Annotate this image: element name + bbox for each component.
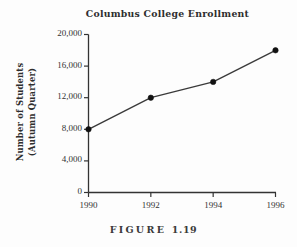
figure-caption: FIGURE 1.19 [0,224,297,235]
figure-container: Columbus College Enrollment Number of St… [0,0,297,247]
figure-caption-word: FIGURE [110,224,167,235]
x-axis-tick-label: 1992 [128,200,174,210]
x-axis-tick-labels: 1990199219941996 [0,0,297,247]
x-axis-tick-label: 1994 [190,200,236,210]
x-axis-tick-label: 1996 [253,200,298,210]
x-axis-tick-label: 1990 [66,200,112,210]
figure-caption-number: 1.19 [172,224,198,235]
